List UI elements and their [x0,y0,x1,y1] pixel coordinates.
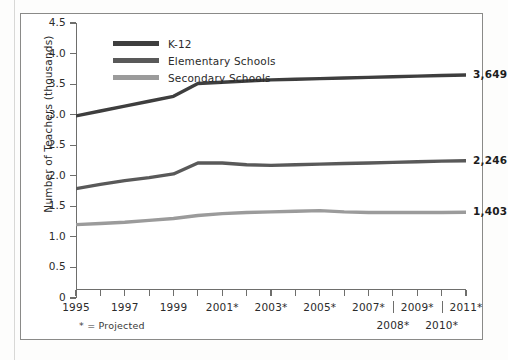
legend-color-swatch [113,58,159,63]
x-axis-tick-label: 2005* [303,301,336,313]
legend-item-label: Secondary Schools [168,72,271,84]
y-axis-tick-label: 2.0 [49,169,66,181]
y-axis-tick-label: 0.5 [49,260,66,272]
scanned-page-background: Number of Teachers (thousands) 00.51.01.… [0,0,508,360]
projected-footnote: * = Projected [79,320,145,331]
legend-item: K-12 [113,36,276,51]
y-axis-tick-label: 1.5 [49,199,66,211]
x-axis-tick-label: 2001* [206,301,239,313]
series-end-label: 1,403 [473,205,507,217]
x-axis-tick-label: 2007* [352,301,385,313]
page-edge-line [14,0,15,360]
legend-item-label: K-12 [168,38,192,50]
series-line [76,161,466,189]
x-axis-tick-label: 1997 [111,301,139,313]
x-axis-tick-label: 2011* [450,301,483,313]
legend-item-label: Elementary Schools [168,55,276,67]
y-axis-tick-label: 2.5 [49,138,66,150]
figure-frame: Number of Teachers (thousands) 00.51.01.… [20,13,483,340]
x-axis-tick-label: 1999 [160,301,188,313]
x-axis-label-separator [442,301,443,313]
line-chart: Number of Teachers (thousands) 00.51.01.… [21,14,484,341]
legend-color-swatch [113,41,159,46]
y-axis-tick-label: 4.5 [49,16,66,28]
x-axis-tick-label: 2009* [401,301,434,313]
y-axis-tick-label: 4.0 [49,47,66,59]
y-axis-tick-label: 1.0 [49,230,66,242]
legend-item: Secondary Schools [113,70,276,85]
legend-item: Elementary Schools [113,53,276,68]
legend-color-swatch [113,75,159,80]
series-end-label: 3,649 [473,68,507,80]
series-line [76,211,466,225]
chart-legend: K-12Elementary SchoolsSecondary Schools [113,36,276,87]
y-axis-tick-label: 3.5 [49,77,66,89]
y-axis-tick-label: 3.0 [49,108,66,120]
series-end-label: 2,246 [473,154,507,166]
x-axis-tick-label-secondary: 2010* [425,319,458,331]
x-axis-tick-label-secondary: 2008* [376,319,409,331]
x-axis-label-separator [393,301,394,313]
x-axis-tick-label: 1995 [62,301,90,313]
x-axis-tick-label: 2003* [255,301,288,313]
